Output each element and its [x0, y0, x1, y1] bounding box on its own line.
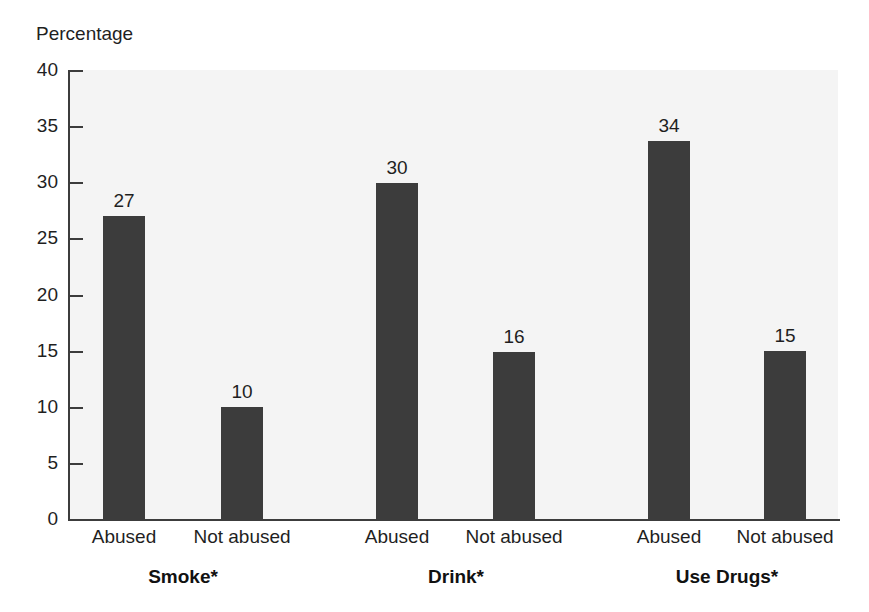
y-tick-label-40: 40 — [6, 60, 58, 79]
x-label-drink-abused: Abused — [337, 526, 457, 548]
bar-drink-not-abused — [493, 352, 535, 519]
x-label-drink-not-abused: Not abused — [444, 526, 584, 548]
x-label-drugs-abused: Abused — [609, 526, 729, 548]
bar-drugs-abused — [648, 141, 690, 519]
y-tick-label-0: 0 — [6, 509, 58, 528]
bar-drugs-not-abused — [764, 351, 806, 519]
group-label-smoke: Smoke* — [113, 566, 253, 588]
plot-area — [68, 70, 838, 519]
y-tick-label-15: 15 — [6, 341, 58, 360]
bar-value-smoke-abused: 27 — [94, 191, 154, 210]
y-tick-15 — [70, 351, 83, 353]
x-label-drugs-not-abused: Not abused — [715, 526, 855, 548]
bar-value-drink-abused: 30 — [367, 158, 427, 177]
y-axis-title: Percentage — [36, 22, 133, 46]
bar-value-drugs-not-abused: 15 — [755, 326, 815, 345]
bar-value-smoke-not-abused: 10 — [212, 382, 272, 401]
x-label-smoke-abused: Abused — [64, 526, 184, 548]
y-tick-35 — [70, 126, 83, 128]
y-tick-label-5: 5 — [6, 453, 58, 472]
bar-smoke-abused — [103, 216, 145, 519]
group-label-use-drugs: Use Drugs* — [657, 566, 797, 588]
y-tick-25 — [70, 238, 83, 240]
y-tick-30 — [70, 182, 83, 184]
bar-drink-abused — [376, 183, 418, 519]
y-tick-10 — [70, 407, 83, 409]
x-label-smoke-not-abused: Not abused — [172, 526, 312, 548]
x-axis-line — [68, 519, 840, 521]
y-tick-label-10: 10 — [6, 397, 58, 416]
bar-value-drink-not-abused: 16 — [484, 327, 544, 346]
y-tick-label-35: 35 — [6, 116, 58, 135]
bar-chart-figure: Percentage 40 35 30 25 20 15 10 5 0 27 1… — [0, 0, 869, 612]
y-tick-40 — [70, 70, 83, 72]
group-label-drink: Drink* — [386, 566, 526, 588]
bar-smoke-not-abused — [221, 407, 263, 519]
y-tick-20 — [70, 295, 83, 297]
y-tick-label-20: 20 — [6, 285, 58, 304]
y-tick-5 — [70, 463, 83, 465]
y-tick-label-25: 25 — [6, 228, 58, 247]
bar-value-drugs-abused: 34 — [639, 116, 699, 135]
y-tick-label-30: 30 — [6, 172, 58, 191]
